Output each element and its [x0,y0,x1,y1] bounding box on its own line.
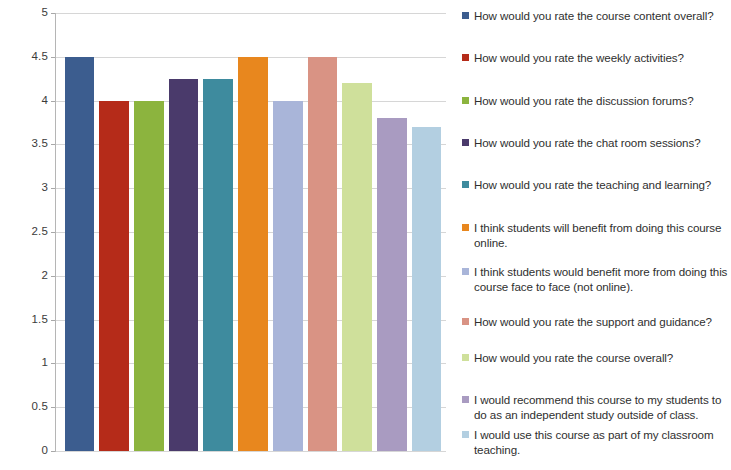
y-axis-tick-label: 0 [20,445,48,457]
legend-item-label: I would recommend this course to my stud… [474,392,731,423]
legend-item[interactable]: How would you rate the discussion forums… [462,93,731,108]
legend-item[interactable]: How would you rate the course content ov… [462,8,731,23]
legend-color-swatch-icon [462,97,469,104]
y-axis-labels: 54.543.532.521.510.50 [18,0,48,470]
y-axis-tick-label: 1 [20,358,48,370]
legend-item-label: How would you rate the chat room session… [474,135,731,150]
legend-color-swatch-icon [462,431,469,438]
legend-color-swatch-icon [462,354,469,361]
legend-item[interactable]: I think students will benefit from doing… [462,220,731,251]
y-axis-tick-label: 2.5 [20,226,48,238]
bar [342,83,372,451]
y-axis-tick-label: 3.5 [20,139,48,151]
bar [169,79,199,451]
bar [99,101,129,451]
y-axis-tick-label: 4 [20,95,48,107]
legend-color-swatch-icon [462,54,469,61]
bar [238,57,268,451]
legend-item-label: I would use this course as part of my cl… [474,427,731,458]
legend-color-swatch-icon [462,396,469,403]
legend-item-label: I think students would benefit more from… [474,264,731,295]
bar-chart-plot: 54.543.532.521.510.50 [0,0,450,470]
legend-item[interactable]: I would use this course as part of my cl… [462,427,731,458]
bar [377,118,407,451]
legend-item[interactable]: How would you rate the course overall? [462,350,731,365]
y-axis-tick-label: 4.5 [20,51,48,63]
legend-color-swatch-icon [462,268,469,275]
y-axis-tick-label: 3 [20,182,48,194]
legend-item-label: How would you rate the course content ov… [474,8,731,23]
legend-item[interactable]: How would you rate the chat room session… [462,135,731,150]
legend-color-swatch-icon [462,12,469,19]
bar [412,127,442,451]
legend-color-swatch-icon [462,139,469,146]
legend-item[interactable]: How would you rate the teaching and lear… [462,177,731,192]
bar [134,101,164,451]
legend-item-label: How would you rate the support and guida… [474,314,731,329]
bar [203,79,233,451]
chart-screenshot: 54.543.532.521.510.50 How would you rate… [0,0,731,470]
legend-item[interactable]: How would you rate the weekly activities… [462,50,731,65]
bar [65,57,95,451]
legend-item-label: How would you rate the teaching and lear… [474,177,731,192]
legend-item-label: I think students will benefit from doing… [474,220,731,251]
legend-item[interactable]: I think students would benefit more from… [462,264,731,295]
legend-color-swatch-icon [462,224,469,231]
y-axis-tick-label: 0.5 [20,401,48,413]
legend-item[interactable]: How would you rate the support and guida… [462,314,731,329]
bar [273,101,303,451]
chart-legend: How would you rate the course content ov… [462,0,731,470]
bar [308,57,338,451]
legend-item-label: How would you rate the course overall? [474,350,731,365]
legend-color-swatch-icon [462,181,469,188]
legend-color-swatch-icon [462,318,469,325]
y-axis-tick-label: 5 [20,7,48,19]
y-axis-tick-label: 1.5 [20,314,48,326]
legend-item-label: How would you rate the weekly activities… [474,50,731,65]
bars-layer [56,0,446,470]
y-axis-tick-label: 2 [20,270,48,282]
legend-item[interactable]: I would recommend this course to my stud… [462,392,731,423]
legend-item-label: How would you rate the discussion forums… [474,93,731,108]
